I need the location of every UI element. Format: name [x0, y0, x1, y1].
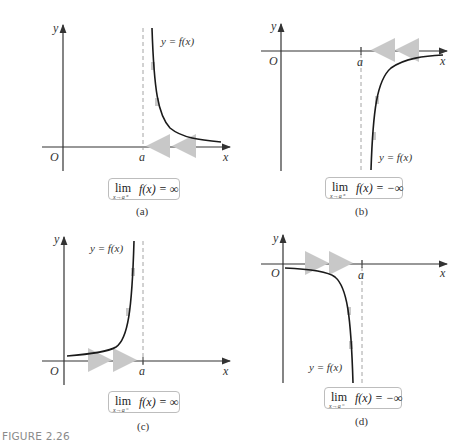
limit-box-a: lim x→a⁺ f(x) = ∞ — [108, 178, 180, 200]
origin-label: O — [50, 151, 59, 163]
limit-box-c: lim x→a⁻ f(x) = ∞ — [108, 391, 180, 413]
curve-label: y = f(x) — [309, 362, 342, 373]
limit-box-b: lim x→a⁺ f(x) = −∞ — [325, 177, 403, 199]
origin-label: O — [50, 365, 59, 377]
asymptote-label: a — [139, 151, 145, 163]
limit-box-d: lim x→a⁻ f(x) = −∞ — [324, 387, 402, 409]
curve-label: y = f(x) — [379, 152, 412, 163]
y-axis-label: y — [271, 20, 276, 32]
curve-c — [67, 241, 134, 356]
y-axis-label: y — [273, 232, 278, 244]
caption-c: (c) — [137, 420, 149, 432]
x-axis-label: x — [223, 365, 228, 377]
graph-d — [235, 215, 471, 446]
x-axis-label: x — [223, 151, 228, 163]
panel-a: y x O a y = f(x) lim x→a⁺ f(x) = ∞ (a) — [0, 0, 235, 210]
panel-b: y x O a y = f(x) lim x→a⁺ f(x) = −∞ (b) — [235, 0, 471, 210]
origin-label: O — [269, 55, 278, 67]
asymptote-label: a — [358, 269, 364, 281]
y-axis-label: y — [54, 233, 59, 245]
curve-label: y = f(x) — [161, 36, 194, 47]
curve-label: y = f(x) — [90, 243, 123, 254]
origin-label: O — [271, 267, 280, 279]
figure-label: FIGURE 2.26 — [2, 430, 70, 442]
x-axis-label: x — [440, 55, 445, 67]
asymptote-label: a — [357, 56, 363, 68]
asymptote-label: a — [139, 365, 145, 377]
panel-c: y x O a y = f(x) lim x→a⁻ f(x) = ∞ (c) — [0, 215, 235, 446]
caption-d: (d) — [355, 415, 368, 427]
y-axis-label: y — [53, 22, 58, 34]
x-axis-label: x — [440, 267, 445, 279]
panel-d: y x O a y = f(x) lim x→a⁻ f(x) = −∞ (d) — [235, 215, 471, 446]
